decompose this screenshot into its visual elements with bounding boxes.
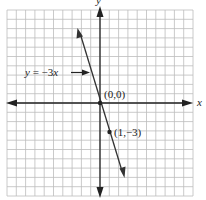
point-label: (1,−3) — [114, 126, 142, 139]
line-bottom-arrow-icon — [120, 167, 126, 179]
line-top-arrow-icon — [77, 28, 84, 39]
y-axis-label: y — [95, 0, 101, 6]
origin-label: (0,0) — [104, 88, 125, 101]
coordinate-plane: y = −3x (0,0) (1,−3) x y — [0, 0, 206, 200]
x-axis-right-arrow-icon — [182, 100, 193, 107]
origin-point — [98, 101, 102, 105]
x-axis-label: x — [196, 96, 202, 108]
point-1-neg3 — [107, 130, 111, 134]
x-axis-left-arrow-icon — [6, 100, 17, 107]
equation-arrow-head-icon — [82, 70, 90, 76]
equation-label: y = −3x — [24, 66, 58, 78]
y-axis-top-arrow-icon — [97, 6, 104, 17]
